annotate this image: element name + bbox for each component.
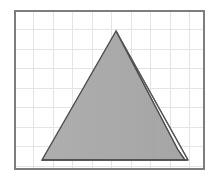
pyramid-figure: [0, 0, 221, 181]
figure-container: Pyramid on graph paper Shaded square pyr…: [0, 0, 221, 181]
